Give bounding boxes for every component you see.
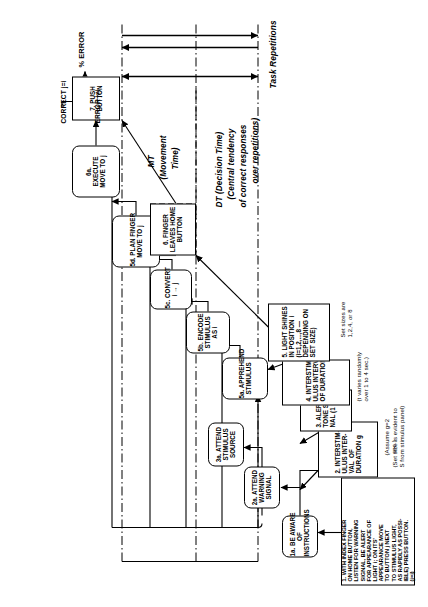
measure-dt-label: DT (Decision Time): [216, 131, 223, 207]
stimulus-box-5: 5. LIGHT SHINES IN POSITION i (i=1,2,...…: [268, 303, 330, 361]
process-box-5c-text: 5c. CONVERT i → j: [164, 270, 178, 308]
instructions-box: 1. WITH INDEX FINGER ON HOME BUTTON, LIS…: [341, 477, 415, 585]
measure-dt-sub1: (Central tendency: [228, 128, 235, 199]
process-box-5a: 5a. APPREHEND STIMULUS: [222, 357, 268, 399]
stimulus-box-4-text: 4. INTERSTIM- ULUS INTERVAL OF DURATION …: [305, 360, 326, 404]
measure-task-repetitions: Task Repetitions: [270, 20, 277, 88]
measure-mt-sub1: (Movement: [160, 135, 167, 179]
measure-dt-sub3: over repetitions): [252, 117, 259, 183]
process-box-2a: 2a. ATTEND WARNING SIGNAL: [244, 466, 280, 508]
outcome-correct-label: CORRECT j=i: [60, 80, 67, 123]
note-set-sizes: Set sizes are 1,2,4, or 8: [340, 301, 354, 337]
note-assume-g: (Assume g=2 sec.): [384, 418, 398, 455]
measure-dt-sub2: of correct responses: [240, 124, 247, 207]
process-box-5d-text: 5d. PLAN FINGER MOVE TO j: [129, 216, 143, 266]
figure-canvas: INSTRUCTIONS 1. WITH INDEX FINGER ON HOM…: [0, 0, 428, 607]
process-box-3a-text: 3a. ATTEND STIMULUS SOURCE: [215, 423, 236, 465]
response-box-6-text: 6. FINGER LEAVES HOME BUTTON: [162, 204, 183, 254]
process-box-5b: 5b. ENCODE STIMULUS AS i: [186, 311, 230, 353]
process-box-5a-text: 5a. APPREHEND STIMULUS: [238, 358, 252, 398]
diagram-stage: INSTRUCTIONS 1. WITH INDEX FINGER ON HOM…: [0, 0, 428, 607]
process-box-6a: 6a. EXECUTE MOVE TO j: [72, 145, 120, 197]
measure-mt-sub2: Time): [172, 147, 179, 169]
process-box-5b-text: 5b. ENCODE STIMULUS AS i: [197, 312, 218, 352]
instructions-text: 1. WITH INDEX FINGER ON HOME BUTTON, LIS…: [341, 478, 415, 584]
process-box-3a: 3a. ATTEND STIMULUS SOURCE: [208, 422, 244, 466]
process-box-5c: 5c. CONVERT i → j: [150, 269, 192, 309]
stimulus-box-4: 4. INTERSTIM- ULUS INTERVAL OF DURATION …: [282, 359, 350, 405]
measure-mt-label: MT: [148, 155, 155, 167]
process-box-6a-text: 6a. EXECUTE MOVE TO j: [85, 146, 106, 196]
response-box-6: 6. FINGER LEAVES HOME BUTTON: [150, 203, 196, 255]
stimulus-box-5-text: 5. LIGHT SHINES IN POSITION i (i=1,2,...…: [281, 304, 316, 360]
process-box-1a-text: 1a. BE AWARE OF INSTRUCTIONS: [289, 516, 310, 556]
process-box-1a: 1a. BE AWARE OF INSTRUCTIONS: [282, 515, 318, 557]
percent-error-label: % ERROR: [78, 31, 85, 67]
process-box-2a-text: 2a. ATTEND WARNING SIGNAL: [251, 467, 272, 507]
outcome-error-label: ERROR j≠i: [94, 89, 101, 123]
note-t-varies: (t varies randomly over 1 to 4 sec.): [356, 352, 370, 401]
